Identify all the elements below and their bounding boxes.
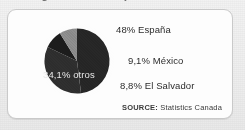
pie-label-el-salvador: 8,8% El Salvador (120, 80, 194, 91)
pie-label-espana: 48% España (116, 24, 171, 35)
pie-label-mexico: 9,1% México (128, 55, 183, 66)
pie-slice-espana (77, 28, 110, 93)
pie-svg (40, 24, 114, 98)
source-prefix-label: SOURCE: (122, 103, 158, 112)
source-name-label: Statistics Canada (160, 103, 222, 112)
source-credit: SOURCE: Statistics Canada (122, 103, 222, 112)
chart-card: 34,1% otros 48% España 9,1% México 8,8% … (7, 9, 233, 119)
infographic-page: Origen de los hispanos en Canadá 34,1% o… (0, 0, 245, 130)
pie-label-otros: 34,1% otros (43, 69, 115, 80)
headline-strip: Origen de los hispanos en Canadá (0, 0, 245, 7)
pie-chart: 34,1% otros (40, 24, 114, 98)
headline-title: Origen de los hispanos en Canadá (22, 0, 227, 1)
